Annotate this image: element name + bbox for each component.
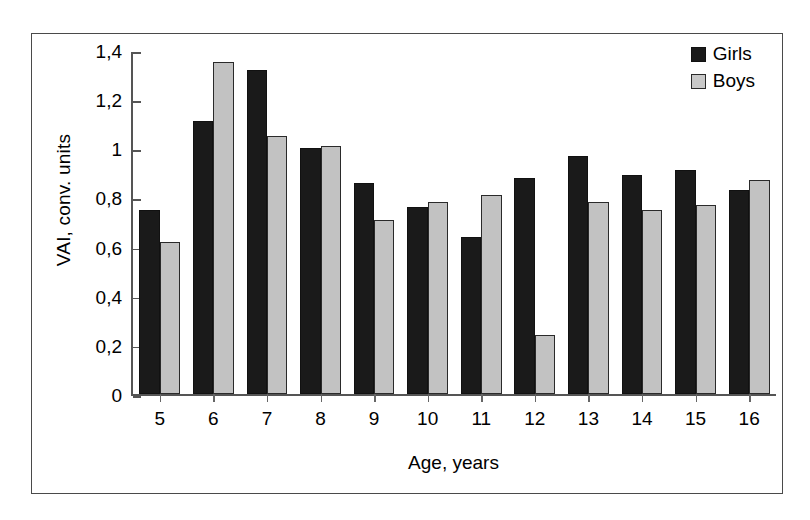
x-axis-tick <box>267 394 269 402</box>
bar-group: 11 <box>454 52 508 394</box>
y-axis-tick-label: 0,2 <box>96 336 122 358</box>
y-axis-tick-label: 0,4 <box>96 287 122 309</box>
bar-group: 14 <box>615 52 669 394</box>
bar-girls-age-8 <box>300 148 320 394</box>
y-axis-title: VAI, conv. units <box>53 100 75 300</box>
bar-boys-age-10 <box>428 202 448 394</box>
bar-group: 13 <box>562 52 616 394</box>
y-axis-tick <box>133 396 141 398</box>
bar-girls-age-16 <box>729 190 749 394</box>
chart-figure: VAI, conv. units Girls Boys 00,20,40,60,… <box>31 33 783 494</box>
y-axis-tick-label: 0,6 <box>96 238 122 260</box>
y-axis-tick-label: 0 <box>111 385 122 407</box>
x-axis-tick <box>213 394 215 402</box>
x-axis-tick-label: 13 <box>562 408 616 430</box>
bar-boys-age-12 <box>535 335 555 394</box>
bar-boys-age-5 <box>160 242 180 394</box>
x-axis-tick-label: 12 <box>508 408 562 430</box>
x-axis-tick <box>321 394 323 402</box>
x-axis-tick <box>160 394 162 402</box>
bar-boys-age-15 <box>696 205 716 394</box>
y-axis-tick-label: 1,4 <box>96 41 122 63</box>
bar-girls-age-12 <box>514 178 534 394</box>
bar-girls-age-7 <box>247 70 267 394</box>
x-axis-tick-label: 14 <box>615 408 669 430</box>
bar-girls-age-14 <box>622 175 642 394</box>
x-axis-tick <box>588 394 590 402</box>
x-axis-title: Age, years <box>131 452 776 474</box>
bar-group: 16 <box>722 52 776 394</box>
bar-boys-age-11 <box>481 195 501 394</box>
x-axis-tick-label: 7 <box>240 408 294 430</box>
bar-boys-age-16 <box>749 180 769 394</box>
bar-group: 9 <box>347 52 401 394</box>
x-axis-tick-label: 16 <box>722 408 776 430</box>
bar-boys-age-8 <box>321 146 341 394</box>
x-axis-tick <box>535 394 537 402</box>
bar-girls-age-13 <box>568 156 588 394</box>
x-axis-tick-label: 6 <box>187 408 241 430</box>
bar-girls-age-9 <box>354 183 374 394</box>
bar-girls-age-6 <box>193 121 213 394</box>
x-axis-tick-label: 11 <box>454 408 508 430</box>
bar-group: 7 <box>240 52 294 394</box>
x-axis-tick-label: 5 <box>133 408 187 430</box>
bar-boys-age-6 <box>213 62 233 394</box>
x-axis-tick <box>428 394 430 402</box>
bar-boys-age-14 <box>642 210 662 394</box>
x-axis-tick-label: 15 <box>669 408 723 430</box>
x-axis-line <box>131 394 776 396</box>
bar-group: 10 <box>401 52 455 394</box>
bar-group: 15 <box>669 52 723 394</box>
y-axis-tick-label: 1 <box>111 139 122 161</box>
bar-boys-age-9 <box>374 220 394 394</box>
bar-girls-age-10 <box>407 207 427 394</box>
x-axis-tick-label: 8 <box>294 408 348 430</box>
bar-groups: 5678910111213141516 <box>133 52 776 394</box>
x-axis-tick <box>749 394 751 402</box>
plot-area: 00,20,40,60,811,21,4 5678910111213141516 <box>131 52 776 396</box>
x-axis-tick-label: 9 <box>347 408 401 430</box>
y-axis-tick-label: 0,8 <box>96 188 122 210</box>
x-axis-tick <box>642 394 644 402</box>
x-axis-tick <box>696 394 698 402</box>
bar-group: 8 <box>294 52 348 394</box>
bar-boys-age-13 <box>588 202 608 394</box>
bar-group: 6 <box>187 52 241 394</box>
x-axis-tick <box>481 394 483 402</box>
bar-boys-age-7 <box>267 136 287 394</box>
bar-girls-age-11 <box>461 237 481 394</box>
x-axis-tick <box>374 394 376 402</box>
y-axis-tick-label: 1,2 <box>96 90 122 112</box>
bar-girls-age-15 <box>675 170 695 394</box>
bar-group: 12 <box>508 52 562 394</box>
x-axis-tick-label: 10 <box>401 408 455 430</box>
bar-group: 5 <box>133 52 187 394</box>
bar-girls-age-5 <box>139 210 159 394</box>
